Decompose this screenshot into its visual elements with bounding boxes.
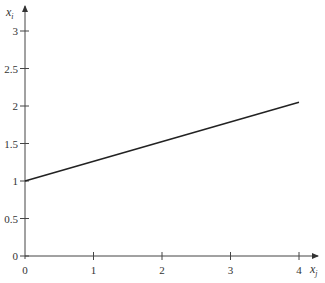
y-tick-label: 0.5	[4, 213, 18, 225]
y-axis-label: xi	[5, 5, 14, 21]
y-tick-label: 3	[13, 25, 19, 37]
x-tick-label: 2	[159, 264, 165, 276]
x-axis-label: xj	[309, 262, 318, 278]
y-tick-label: 1.5	[4, 138, 18, 150]
y-tick-label: 2	[13, 100, 19, 112]
axes	[25, 6, 318, 259]
line-chart: 0123400.511.522.53 xi xj	[0, 0, 325, 283]
series-line	[25, 102, 299, 181]
x-tick-label: 4	[296, 264, 302, 276]
y-tick-label: 1	[13, 175, 19, 187]
ticks: 0123400.511.522.53	[4, 25, 302, 276]
x-tick-label: 3	[228, 264, 234, 276]
x-tick-label: 1	[91, 264, 97, 276]
data-series	[25, 102, 299, 181]
y-tick-label: 2.5	[4, 63, 18, 75]
y-tick-label: 0	[13, 250, 19, 262]
x-tick-label: 0	[22, 264, 28, 276]
